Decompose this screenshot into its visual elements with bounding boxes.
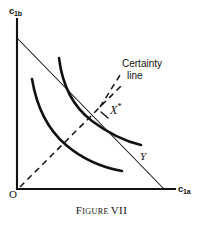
figure-container: c1b c1a O Certainty line X* Y FigureVII	[0, 0, 203, 226]
figure-drawing	[0, 0, 203, 226]
y-axis-label: c1b	[9, 6, 22, 16]
certainty-line-label: Certainty line	[122, 58, 162, 82]
x-axis-label-subscript: 1a	[183, 188, 190, 195]
indifference-curve-lower	[32, 79, 122, 171]
figure-caption-word: Figure	[76, 204, 109, 216]
tangency-marker	[101, 112, 108, 118]
y-axis-label-subscript: 1b	[14, 10, 22, 17]
optimum-point-label: X*	[110, 104, 122, 116]
origin-label: O	[9, 189, 17, 200]
optimum-point-label-superscript: *	[117, 101, 122, 111]
figure-caption: FigureVII	[0, 205, 203, 216]
certainty-line-label-line1: Certainty	[122, 58, 162, 69]
budget-line-label: Y	[140, 151, 146, 162]
certainty-line-label-line2: line	[122, 70, 162, 82]
x-axis-label: c1a	[178, 184, 190, 194]
figure-caption-numeral: VII	[109, 204, 127, 216]
